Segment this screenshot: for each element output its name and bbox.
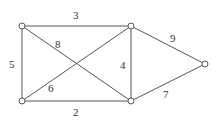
weight-b-e: 9 <box>170 32 176 44</box>
weight-a-d: 8 <box>55 38 61 50</box>
node-a <box>19 23 25 29</box>
weighted-graph: 3 5 8 6 2 4 9 7 <box>0 0 223 126</box>
node-e <box>202 61 208 67</box>
weight-a-c: 5 <box>9 58 15 70</box>
weight-a-b: 3 <box>73 9 79 21</box>
weight-d-e: 7 <box>163 88 169 100</box>
node-d <box>128 98 134 104</box>
weight-c-b: 6 <box>48 82 54 94</box>
edge-b-e <box>131 26 205 64</box>
node-c <box>19 98 25 104</box>
edge-labels: 3 5 8 6 2 4 9 7 <box>9 9 176 118</box>
weight-b-d: 4 <box>120 59 126 71</box>
weight-c-d: 2 <box>73 106 79 118</box>
node-b <box>128 23 134 29</box>
